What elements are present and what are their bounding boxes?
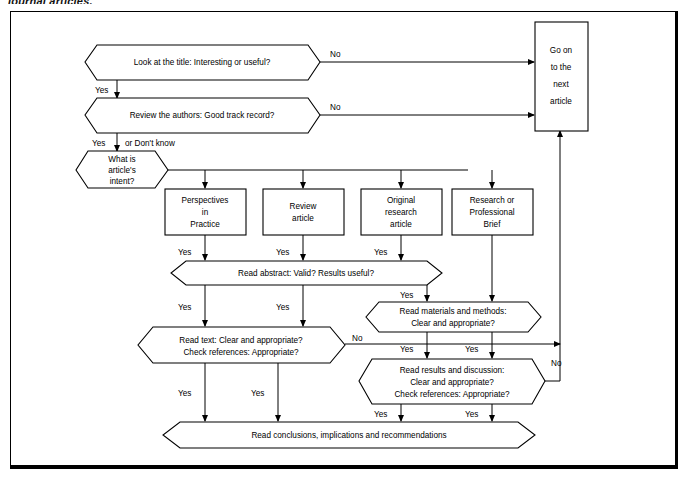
node-title-question[interactable]: Look at the title: Interesting or useful… <box>85 45 320 80</box>
node-intent-question-line1: What is <box>108 155 135 164</box>
node-authors-question-label: Review the authors: Good track record? <box>130 111 275 120</box>
node-perspectives-in-practice[interactable]: Perspectives in Practice <box>165 189 246 235</box>
edge-label-text-yes-left: Yes <box>178 389 191 398</box>
node-read-text-line2: Check references: Appropriate? <box>183 348 299 357</box>
edge-label-title-no: No <box>330 50 341 59</box>
node-original-line1: Original <box>387 196 415 205</box>
edge-label-results-no: No <box>551 359 562 368</box>
node-read-methods-line1: Read materials and methods: <box>400 307 507 316</box>
edge-label-text-no: No <box>352 334 363 343</box>
edge-label-abstract-yes-left: Yes <box>178 303 191 312</box>
edge-label-perspectives-yes: Yes <box>178 248 191 257</box>
node-next-article-line1: Go on <box>550 46 573 55</box>
node-next-article-line3: next <box>553 80 569 89</box>
node-review-article[interactable]: Review article <box>263 189 344 235</box>
node-next-article-line2: to the <box>551 63 572 72</box>
node-original-research-article[interactable]: Original research article <box>361 189 442 235</box>
node-perspectives-line2: in <box>202 208 209 217</box>
edge-label-abstract-yes-methods: Yes <box>400 291 413 300</box>
edge-label-abstract-yes-right: Yes <box>276 303 289 312</box>
edge-label-dont-know: or Don't know <box>125 139 175 148</box>
node-brief-line2: Professional <box>469 208 514 217</box>
edge-label-original-yes: Yes <box>374 248 387 257</box>
edge-label-authors-no: No <box>330 103 341 112</box>
node-brief-line3: Brief <box>484 220 502 229</box>
node-read-results-line3: Check references: Appropriate? <box>394 390 510 399</box>
node-read-results-question[interactable]: Read results and discussion: Clear and a… <box>359 359 545 404</box>
edge-label-methods-yes-right: Yes <box>465 345 478 354</box>
node-original-line3: article <box>390 220 412 229</box>
node-read-abstract-label: Read abstract: Valid? Results useful? <box>238 269 374 278</box>
edge-label-results-yes-right: Yes <box>465 410 478 419</box>
node-read-text-line1: Read text: Clear and appropriate? <box>179 336 303 345</box>
node-read-abstract-question[interactable]: Read abstract: Valid? Results useful? <box>171 261 442 285</box>
node-read-text-question[interactable]: Read text: Clear and appropriate? Check … <box>138 327 345 363</box>
node-review-line1: Review <box>290 202 317 211</box>
node-read-conclusions-label: Read conclusions, implications and recom… <box>251 431 446 440</box>
flowchart: Look at the title: Interesting or useful… <box>0 0 681 479</box>
node-research-professional-brief[interactable]: Research or Professional Brief <box>452 189 533 235</box>
edge-label-methods-yes-left: Yes <box>400 345 413 354</box>
edge-label-review-yes: Yes <box>276 248 289 257</box>
node-brief-line1: Research or <box>470 196 515 205</box>
node-perspectives-line1: Perspectives <box>182 196 229 205</box>
node-intent-question-line2: article's <box>108 166 136 175</box>
node-read-methods-line2: Clear and appropriate? <box>411 319 495 328</box>
node-read-results-line1: Read results and discussion: <box>400 366 505 375</box>
edge-label-text-yes-right: Yes <box>251 389 264 398</box>
node-read-results-line2: Clear and appropriate? <box>410 378 494 387</box>
node-original-line2: research <box>385 208 417 217</box>
node-next-article-line4: article <box>550 97 572 106</box>
node-review-line2: article <box>292 214 314 223</box>
node-next-article[interactable]: Go on to the next article <box>535 22 588 131</box>
edge-label-results-yes-left: Yes <box>374 410 387 419</box>
node-perspectives-line3: Practice <box>190 220 220 229</box>
node-intent-question-line3: intent? <box>110 177 135 186</box>
node-read-methods-question[interactable]: Read materials and methods: Clear and ap… <box>366 302 541 332</box>
node-title-question-label: Look at the title: Interesting or useful… <box>134 58 271 67</box>
node-read-conclusions[interactable]: Read conclusions, implications and recom… <box>163 422 535 448</box>
node-authors-question[interactable]: Review the authors: Good track record? <box>85 98 320 133</box>
edge-label-title-yes: Yes <box>95 86 108 95</box>
edge-label-authors-yes: Yes <box>92 139 105 148</box>
node-intent-question[interactable]: What is article's intent? <box>76 151 168 188</box>
